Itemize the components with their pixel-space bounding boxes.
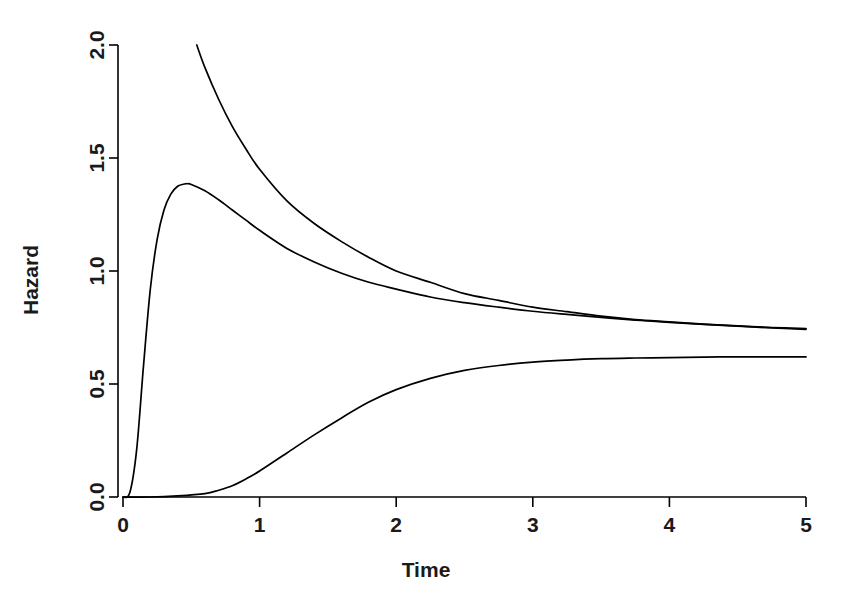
x-tick-label: 5 <box>800 513 812 536</box>
x-tick-label: 4 <box>664 513 676 536</box>
hazard-plot-figure: 0.00.51.01.52.0 012345 Time Hazard <box>0 0 853 603</box>
y-tick-label: 0.5 <box>85 369 108 399</box>
x-tick-label: 0 <box>117 513 129 536</box>
y-axis-title: Hazard <box>19 245 42 315</box>
y-tick-label: 2.0 <box>85 30 108 59</box>
x-tick-label: 2 <box>390 513 402 536</box>
x-axis-title: Time <box>402 558 451 581</box>
y-tick-label: 1.5 <box>85 143 108 173</box>
chart-canvas: 0.00.51.01.52.0 012345 Time Hazard <box>0 0 853 603</box>
x-tick-label: 1 <box>254 513 266 536</box>
x-tick-label: 3 <box>527 513 539 536</box>
y-tick-label: 0.0 <box>85 482 108 511</box>
y-tick-label: 1.0 <box>85 256 108 285</box>
